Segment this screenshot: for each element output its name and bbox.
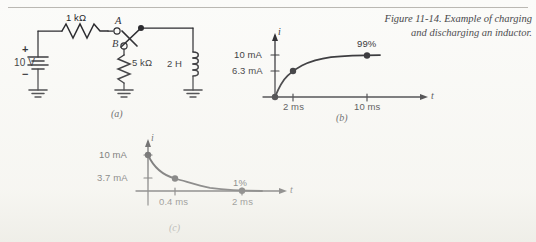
graph-c-x-axis-label: t xyxy=(290,184,293,195)
graph-b-curve xyxy=(275,55,380,97)
graph-b-x-tick-label-10ms: 10 ms xyxy=(354,101,380,112)
graph-b-x-axis-label: t xyxy=(431,90,434,101)
inductor-coil-4 xyxy=(193,70,198,76)
graph-b-point-tau xyxy=(290,68,296,74)
graph-c-y-axis-label: i xyxy=(151,132,154,143)
panel-label-b: (b) xyxy=(336,112,348,123)
source-voltage-label: 10 V xyxy=(14,57,35,68)
switch-terminal-a-label: A xyxy=(115,15,121,26)
graph-c-y-tick-label-10ma: 10 mA xyxy=(99,149,127,160)
source-polarity-plus: + xyxy=(22,43,29,55)
graph-c-point-1pct xyxy=(239,188,245,194)
resistor-5k-symbol xyxy=(118,55,130,83)
switch-terminal-a-contact xyxy=(114,28,120,34)
graph-c-annotation-1pct: 1% xyxy=(233,177,247,188)
figure-page: Figure 11-14. Example of charging and di… xyxy=(0,0,536,242)
resistor-1k-label: 1 kΩ xyxy=(66,12,86,23)
graph-c-y-tick-label-3-7ma: 3.7 mA xyxy=(97,172,128,183)
graph-b-y-tick-label-6-3ma: 6.3 mA xyxy=(232,65,263,76)
switch-terminal-b-label: B xyxy=(112,38,118,49)
resistor-5k-label: 5 kΩ xyxy=(132,57,152,68)
graph-b-x-arrowhead xyxy=(420,94,428,100)
resistor-1k-symbol xyxy=(62,24,108,38)
panel-label-c: (c) xyxy=(169,222,180,233)
inductor-2h-label: 2 H xyxy=(167,58,182,69)
inductor-coil-2 xyxy=(193,58,198,64)
graph-c-x-arrowhead xyxy=(279,188,287,194)
inductor-coil-1 xyxy=(193,52,198,58)
inductor-coil-3 xyxy=(193,64,198,70)
graph-b-artwork xyxy=(263,33,428,101)
graph-c-point-origin xyxy=(145,152,151,158)
graph-b-point-99pct xyxy=(364,52,370,58)
figure-artwork xyxy=(0,0,536,242)
panel-label-a: (a) xyxy=(111,108,123,119)
graph-b-y-axis-label: i xyxy=(278,26,281,37)
graph-b-annotation-99pct: 99% xyxy=(357,38,376,49)
switch-blade xyxy=(121,28,141,47)
graph-b-point-origin xyxy=(272,94,278,100)
graph-b-x-tick-label-2ms: 2 ms xyxy=(283,101,304,112)
graph-c-x-tick-label-2ms: 2 ms xyxy=(232,196,253,207)
graph-b-y-tick-label-10ma: 10 mA xyxy=(234,49,262,60)
graph-c-point-tau xyxy=(172,175,178,181)
source-polarity-minus: − xyxy=(22,68,29,80)
graph-c-x-tick-label-0-4ms: 0.4 ms xyxy=(159,196,188,207)
